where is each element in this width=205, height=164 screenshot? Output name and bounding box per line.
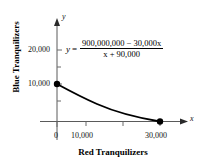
x-axis-variable-label: x [190,114,194,123]
x-axis-title: Red Tranquilizers [58,147,168,157]
y-tick-label-20000: 20,000 [28,45,50,54]
point-y-intercept [54,81,60,87]
y-axis-title: Blue Tranquilizers [11,16,21,98]
x-axis-ticks [57,122,160,128]
equation-denominator: x + 90,000 [80,48,163,59]
x-tick-label-10000: 10,000 [71,131,93,140]
x-tick-label-0: 0 [54,131,58,140]
data-curve [57,84,160,122]
y-axis-variable-label: y [62,12,66,21]
y-axis-ticks [57,50,62,101]
equation-annotation: y = 900,000,000 − 30,000x x + 90,000 [66,38,163,59]
equation-lhs: y [66,44,70,54]
x-tick-label-30000: 30,000 [145,131,167,140]
chart-figure: 20,000 10,000 0 10,000 30,000 y x Blue T… [0,0,205,164]
x-axis [40,119,188,125]
equation-equals: = [72,44,77,54]
equation-numerator: 900,000,000 − 30,000x [80,38,163,48]
y-tick-label-10000: 10,000 [28,79,50,88]
point-x-intercept [157,118,163,124]
equation-fraction: 900,000,000 − 30,000x x + 90,000 [80,38,163,59]
